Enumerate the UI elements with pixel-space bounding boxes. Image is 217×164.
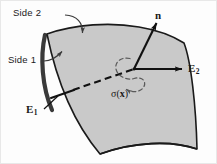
e2-subscript: 2 bbox=[196, 67, 200, 76]
sigma-stress-label: σ(x) bbox=[111, 89, 128, 99]
normal-vector-label: n bbox=[155, 10, 161, 21]
e2-letter: E bbox=[188, 62, 195, 74]
diagram-canvas bbox=[1, 1, 217, 164]
e1-vector-label: E1 bbox=[26, 104, 37, 117]
sigma-open: σ( bbox=[111, 88, 120, 99]
surface-normal-diagram: Side 2 Side 1 n E1 E2 σ(x) bbox=[0, 0, 217, 164]
e2-vector-label: E2 bbox=[188, 63, 199, 76]
side1-label: Side 1 bbox=[8, 55, 36, 65]
surface-point-marker bbox=[133, 68, 136, 71]
e1-subscript: 1 bbox=[34, 108, 38, 117]
e1-letter: E bbox=[26, 103, 33, 115]
sigma-close: ) bbox=[125, 88, 128, 99]
side2-label: Side 2 bbox=[13, 8, 41, 18]
